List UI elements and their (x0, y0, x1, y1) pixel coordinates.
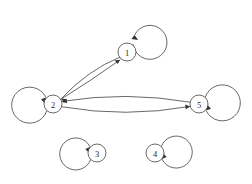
edge-path-node1-to-node2 (61, 57, 120, 98)
node-circle-1 (118, 43, 136, 61)
graph-canvas: 1 2 3 4 5 (0, 0, 252, 184)
self-loop-node-2[interactable] (12, 87, 47, 123)
graph-diagram: 1 2 3 4 5 (0, 0, 252, 184)
self-loop-path-node-5 (205, 85, 240, 121)
self-loop-node-1[interactable] (131, 25, 167, 59)
self-loop-node-5[interactable] (205, 85, 240, 121)
node-circle-4 (146, 144, 164, 162)
node-4[interactable]: 4 (146, 144, 164, 162)
edge-node2-to-node5[interactable] (62, 105, 190, 113)
self-loop-path-node-3 (60, 138, 91, 170)
edge-path-node5-to-node2 (62, 96, 190, 102)
self-loop-arrowhead-node-1 (131, 35, 138, 40)
self-loop-node-4[interactable] (161, 136, 192, 168)
self-loop-node-3[interactable] (60, 138, 91, 170)
edge-path-node2-to-node5 (62, 106, 190, 112)
self-loop-path-node-2 (12, 87, 47, 123)
edge-node5-to-node2[interactable] (62, 96, 190, 103)
edge-path-node2-to-node1 (60, 60, 120, 100)
node-1[interactable]: 1 (118, 43, 136, 61)
node-3[interactable]: 3 (88, 144, 106, 162)
self-loop-path-node-4 (161, 136, 192, 168)
self-loop-path-node-1 (133, 25, 167, 59)
node-circle-5 (190, 95, 208, 113)
edge-node2-to-node1[interactable] (60, 60, 120, 100)
node-5[interactable]: 5 (190, 95, 208, 113)
node-circle-3 (88, 144, 106, 162)
node-circle-2 (44, 95, 62, 113)
node-2[interactable]: 2 (44, 95, 62, 113)
